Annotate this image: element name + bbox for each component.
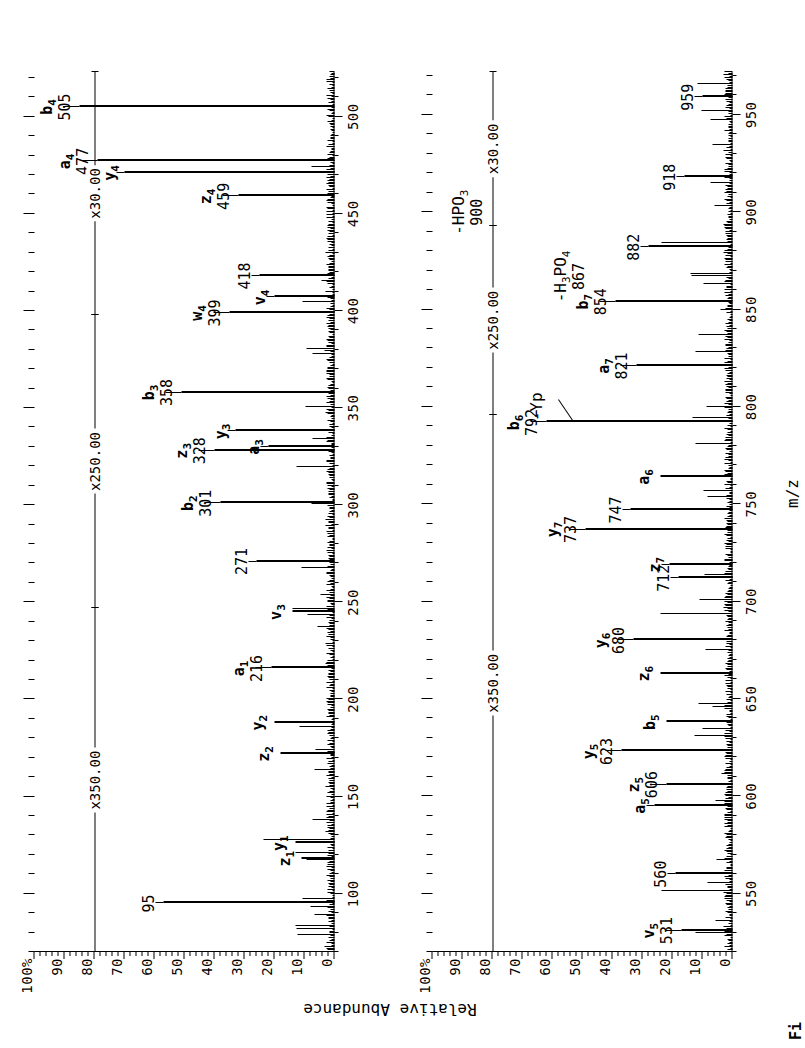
noise-peak: [727, 939, 732, 940]
noise-peak: [327, 792, 334, 793]
noise-peak: [327, 241, 334, 242]
y-tick-label: 40: [596, 952, 612, 976]
y-tick-minor: [599, 952, 600, 956]
noise-peak: [727, 745, 732, 746]
noise-peak: [331, 757, 334, 758]
noise-peak: [725, 884, 732, 885]
noise-peak: [327, 420, 334, 421]
noise-peak: [329, 455, 334, 456]
noise-peak: [328, 267, 334, 268]
y-tick-minor: [285, 952, 286, 956]
noise-peak: [728, 557, 732, 558]
noise-peak: [328, 555, 334, 556]
peak-annotation: b3358: [141, 379, 175, 406]
noise-peak: [725, 792, 732, 793]
noise-peak: [730, 739, 732, 740]
noise-peak: [332, 951, 334, 952]
y-tick-minor: [231, 952, 232, 956]
noise-peak: [328, 673, 334, 674]
top-ruler-tick: [28, 737, 34, 738]
noise-peak: [725, 668, 732, 669]
y-tick-minor: [165, 952, 166, 956]
y-tick-minor: [713, 952, 714, 956]
noise-peak: [729, 82, 732, 83]
noise-peak: [327, 174, 334, 175]
noise-peak: [698, 334, 732, 335]
lower-spectrum-panel: 0102030405060708090100%55060065070075080…: [432, 72, 762, 952]
noise-peak: [326, 687, 334, 688]
y-tick-minor: [267, 952, 268, 956]
noise-peak: [332, 656, 334, 657]
y-tick-minor: [69, 952, 70, 956]
top-ruler-tick: [28, 446, 34, 447]
noise-peak: [330, 416, 334, 417]
noise-peak: [326, 948, 334, 949]
noise-peak: [724, 601, 732, 602]
noise-peak: [326, 682, 334, 683]
noise-peak: [728, 127, 732, 128]
noise-peak: [329, 489, 334, 490]
noise-peak: [727, 373, 732, 374]
noise-peak: [727, 907, 732, 908]
noise-peak: [331, 578, 335, 579]
noise-peak: [728, 354, 732, 355]
peak-annotation: z6: [636, 666, 654, 682]
noise-peak: [329, 401, 334, 402]
noise-peak: [331, 107, 334, 108]
noise-peak: [724, 403, 732, 404]
noise-peak: [725, 738, 732, 739]
x-tick-minor: [334, 155, 338, 156]
noise-peak: [724, 604, 732, 605]
noise-peak: [327, 440, 334, 441]
noise-peak: [329, 426, 334, 427]
noise-peak: [727, 583, 732, 584]
y-tick-minor: [467, 952, 468, 956]
noise-peak: [724, 289, 732, 290]
noise-peak: [329, 357, 334, 358]
noise-peak: [328, 258, 334, 259]
noise-peak: [725, 259, 732, 260]
y-tick-minor: [279, 952, 280, 956]
noise-peak: [724, 733, 732, 734]
noise-peak: [328, 674, 334, 675]
mz-value: 747: [608, 497, 623, 524]
noise-peak: [330, 631, 334, 632]
noise-peak: [729, 654, 732, 655]
y-tick-minor: [249, 952, 250, 956]
noise-peak: [327, 869, 334, 870]
noise-peak: [730, 431, 732, 432]
noise-peak: [329, 575, 335, 576]
noise-peak: [326, 597, 334, 598]
noise-peak: [726, 235, 732, 236]
x-tick-minor: [732, 94, 736, 95]
neutral-loss-annotation: -Yp: [528, 392, 544, 421]
noise-peak: [729, 317, 732, 318]
noise-peak: [728, 569, 732, 570]
noise-peak: [327, 367, 334, 368]
y-tick-minor: [81, 952, 82, 956]
noise-peak: [727, 429, 732, 430]
neutral-loss-annotation: -H3PO4867: [552, 251, 587, 303]
noise-peak: [331, 586, 334, 587]
noise-peak: [730, 682, 732, 683]
noise-peak: [728, 460, 732, 461]
noise-peak: [728, 468, 732, 469]
noise-peak: [330, 564, 334, 565]
noise-peak: [727, 555, 732, 556]
noise-peak: [332, 143, 334, 144]
noise-peak: [723, 926, 732, 927]
noise-peak: [330, 298, 334, 299]
noise-peak: [726, 535, 732, 536]
noise-peak: [328, 850, 334, 851]
noise-peak: [728, 839, 732, 840]
top-ruler-tick: [426, 367, 432, 368]
ion-label: y2: [250, 715, 268, 731]
noise-peak: [726, 375, 732, 376]
top-ruler-tick: [426, 133, 432, 134]
x-tick-minor: [732, 75, 736, 76]
x-tick-minor: [732, 932, 736, 933]
top-ruler-tick: [426, 620, 432, 621]
noise-peak: [329, 598, 334, 599]
mz-value: 712: [656, 565, 671, 592]
top-ruler-tick: [28, 155, 34, 156]
